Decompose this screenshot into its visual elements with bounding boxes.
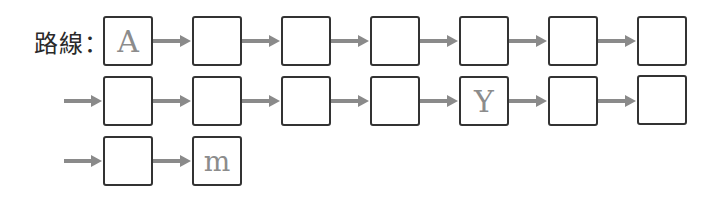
route-box-3-2[interactable]: m (192, 136, 242, 186)
arrow-icon (242, 95, 280, 107)
arrow-icon (64, 155, 102, 167)
arrow-icon (509, 95, 547, 107)
route-box-1-3[interactable] (281, 16, 331, 66)
route-box-2-2[interactable] (192, 76, 242, 126)
route-box-1-2[interactable] (192, 16, 242, 66)
arrow-icon (420, 95, 458, 107)
route-box-1-1[interactable]: A (103, 16, 153, 66)
arrow-icon (420, 35, 458, 47)
arrow-icon (153, 35, 191, 47)
arrow-icon (598, 95, 636, 107)
route-box-2-7[interactable] (637, 75, 687, 125)
route-box-2-3[interactable] (281, 76, 331, 126)
arrow-icon (242, 35, 280, 47)
arrow-icon (509, 35, 547, 47)
route-box-2-6[interactable] (548, 76, 598, 126)
arrow-icon (331, 35, 369, 47)
route-label: 路線： (34, 24, 109, 59)
arrow-icon (153, 155, 191, 167)
route-box-1-4[interactable] (370, 16, 420, 66)
route-box-1-7[interactable] (637, 16, 687, 66)
arrow-icon (64, 95, 102, 107)
arrow-icon (331, 95, 369, 107)
route-box-3-1[interactable] (103, 136, 153, 186)
route-box-2-4[interactable] (370, 76, 420, 126)
arrow-icon (153, 95, 191, 107)
route-box-1-5[interactable] (459, 16, 509, 66)
route-box-2-5[interactable]: Y (459, 76, 509, 126)
route-box-2-1[interactable] (103, 76, 153, 126)
arrow-icon (598, 35, 636, 47)
route-box-1-6[interactable] (548, 16, 598, 66)
